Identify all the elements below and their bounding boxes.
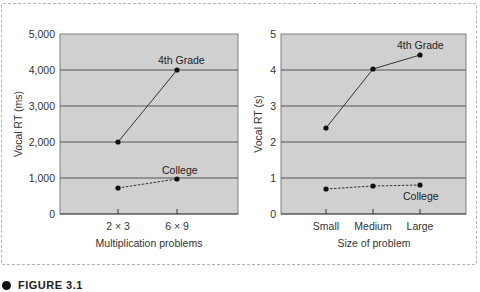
left-ytick-0: 0 bbox=[49, 208, 55, 220]
right-college-point-2 bbox=[417, 182, 422, 187]
left-xtick-0: 2 × 3 bbox=[106, 220, 130, 232]
right-chart: 5 4 3 2 1 0 Small Medium Large Size of p… bbox=[252, 28, 466, 249]
left-plot-area bbox=[60, 34, 238, 214]
left-series-label-4th-grade: 4th Grade bbox=[158, 54, 205, 66]
right-ytick-4: 4 bbox=[270, 64, 276, 76]
right-ytick-1: 1 bbox=[270, 172, 276, 184]
right-college-point-0 bbox=[323, 186, 328, 191]
left-y-axis-title: Vocal RT (ms) bbox=[12, 91, 24, 157]
right-4th-grade-point-0 bbox=[323, 125, 328, 130]
figure-caption: FIGURE 3.1 bbox=[0, 278, 83, 292]
right-series-label-college: College bbox=[403, 190, 439, 202]
right-ytick-5: 5 bbox=[270, 28, 276, 40]
caption-bullet-icon bbox=[2, 281, 11, 290]
left-xtick-1: 6 × 9 bbox=[165, 220, 189, 232]
left-ytick-4: 4,000 bbox=[29, 64, 55, 76]
left-ytick-2: 2,000 bbox=[29, 136, 55, 148]
left-ytick-5: 5,000 bbox=[29, 28, 55, 40]
left-college-point-1 bbox=[174, 176, 179, 181]
left-ytick-3: 3,000 bbox=[29, 100, 55, 112]
right-y-axis-title: Vocal RT (s) bbox=[252, 95, 264, 152]
right-college-point-1 bbox=[370, 183, 375, 188]
right-xtick-1: Medium bbox=[354, 220, 392, 232]
right-xtick-2: Large bbox=[407, 220, 434, 232]
left-college-point-0 bbox=[115, 185, 120, 190]
left-4th-grade-point-0 bbox=[115, 139, 120, 144]
right-4th-grade-point-2 bbox=[417, 52, 422, 57]
right-xtick-0: Small bbox=[313, 220, 339, 232]
left-4th-grade-point-1 bbox=[174, 67, 179, 72]
right-ytick-2: 2 bbox=[270, 136, 276, 148]
left-chart: 5,000 4,000 3,000 2,000 1,000 0 2 × 3 6 … bbox=[12, 28, 238, 249]
right-ytick-3: 3 bbox=[270, 100, 276, 112]
caption-label: FIGURE 3.1 bbox=[18, 279, 83, 291]
left-ytick-1: 1,000 bbox=[29, 172, 55, 184]
right-4th-grade-point-1 bbox=[370, 66, 375, 71]
right-x-axis-title: Size of problem bbox=[338, 237, 411, 249]
right-series-label-4th-grade: 4th Grade bbox=[397, 39, 444, 51]
right-ytick-0: 0 bbox=[270, 208, 276, 220]
left-series-label-college: College bbox=[162, 164, 198, 176]
left-x-axis-title: Multiplication problems bbox=[96, 237, 203, 249]
